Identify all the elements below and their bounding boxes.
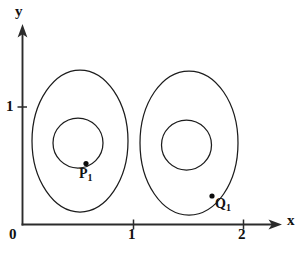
y-axis-label: y xyxy=(15,4,23,19)
left-inner-orbit-curve xyxy=(53,118,103,168)
right-outer-orbit-curve xyxy=(140,71,238,215)
point-label-p1: P1 xyxy=(79,167,93,181)
y-tick-label-1: 1 xyxy=(6,99,14,114)
point-marker-q1 xyxy=(209,193,214,198)
figure-canvas: y x 1 0 1 2 P1 Q1 xyxy=(0,0,307,261)
point-label-q1-subscript: 1 xyxy=(226,202,231,213)
origin-label: 0 xyxy=(9,227,17,242)
point-label-q1: Q1 xyxy=(215,197,231,211)
point-label-q1-base: Q xyxy=(215,196,226,211)
point-label-p1-subscript: 1 xyxy=(88,172,93,183)
point-label-p1-base: P xyxy=(79,166,88,181)
right-inner-orbit-curve xyxy=(162,120,212,170)
x-tick-label-1: 1 xyxy=(128,227,136,242)
plot-graphics xyxy=(0,0,307,261)
left-outer-orbit-curve xyxy=(32,70,128,212)
x-axis-label: x xyxy=(287,213,295,228)
x-tick-label-2: 2 xyxy=(238,227,246,242)
